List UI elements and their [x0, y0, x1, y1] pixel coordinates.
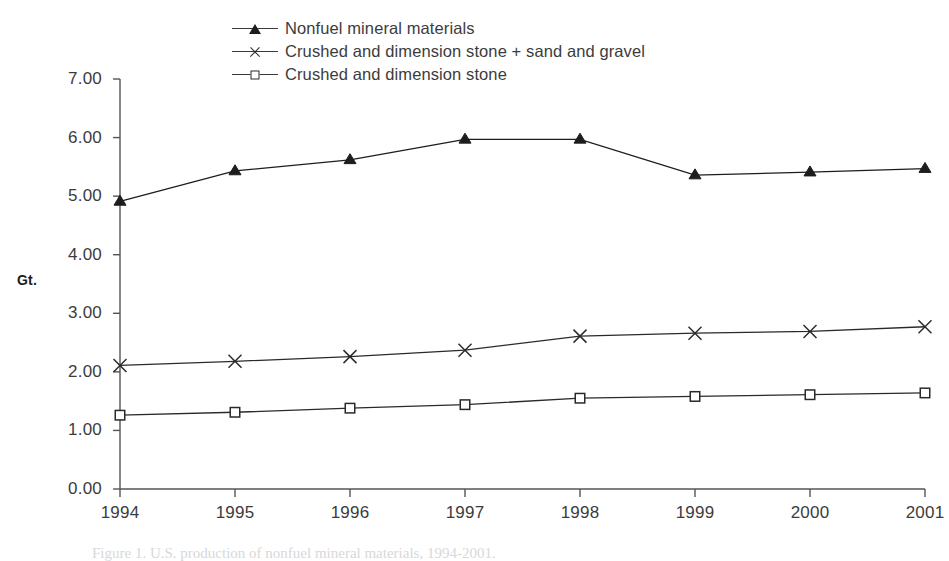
x-tick-label: 1995	[195, 503, 275, 523]
series-line-1	[120, 327, 925, 366]
x-tick-label: 2000	[770, 503, 850, 523]
data-point-marker	[345, 403, 355, 413]
data-point-marker	[460, 400, 470, 410]
data-point-marker	[919, 162, 931, 172]
y-tick-label: 6.00	[42, 128, 102, 148]
y-tick-label: 7.00	[42, 69, 102, 89]
series-line-0	[120, 139, 925, 201]
figure-caption: Figure 1. U.S. production of nonfuel min…	[92, 545, 922, 561]
x-tick-label: 1996	[310, 503, 390, 523]
x-tick-label: 1998	[540, 503, 620, 523]
x-tick-label: 1999	[655, 503, 735, 523]
data-point-marker	[459, 133, 471, 143]
x-tick-label: 1994	[80, 503, 160, 523]
y-tick-label: 5.00	[42, 186, 102, 206]
y-tick-label: 2.00	[42, 362, 102, 382]
data-point-marker	[229, 165, 241, 175]
y-tick-label: 1.00	[42, 420, 102, 440]
data-point-marker	[115, 410, 125, 420]
y-tick-label: 3.00	[42, 303, 102, 323]
data-point-marker	[805, 390, 815, 400]
y-tick-label: 4.00	[42, 245, 102, 265]
data-point-marker	[690, 392, 700, 402]
data-point-marker	[804, 166, 816, 176]
data-point-marker	[575, 393, 585, 403]
x-tick-label: 1997	[425, 503, 505, 523]
data-point-marker	[230, 408, 240, 418]
series-line-2	[120, 393, 925, 415]
y-tick-label: 0.00	[42, 479, 102, 499]
data-point-marker	[574, 133, 586, 143]
x-tick-label: 2001	[885, 503, 949, 523]
data-point-marker	[920, 388, 930, 398]
